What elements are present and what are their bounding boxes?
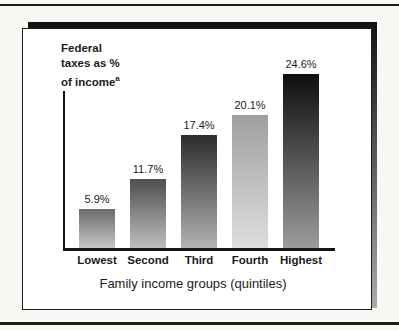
category-label-third: Third bbox=[181, 254, 217, 266]
page-bottom-rule bbox=[0, 322, 399, 325]
bar-group-third: 17.4% bbox=[181, 119, 217, 248]
bar-highest bbox=[283, 74, 319, 248]
bar-group-lowest: 5.9% bbox=[79, 193, 115, 248]
bars-container: 5.9% 11.7% 17.4% 20.1% 24.6% bbox=[79, 29, 319, 248]
bar-value-label: 5.9% bbox=[84, 193, 109, 205]
bar-fourth bbox=[232, 115, 268, 248]
bar-value-label: 17.4% bbox=[183, 119, 214, 131]
bar-group-second: 11.7% bbox=[130, 163, 166, 248]
bar-group-highest: 24.6% bbox=[283, 58, 319, 248]
bar-value-label: 11.7% bbox=[133, 163, 163, 175]
category-label-lowest: Lowest bbox=[79, 254, 115, 266]
bar-second bbox=[130, 179, 166, 248]
chart-panel: Federal taxes as % of incomea 5.9% 11.7%… bbox=[22, 28, 372, 310]
category-label-second: Second bbox=[130, 254, 166, 266]
x-axis-line bbox=[63, 248, 335, 251]
category-label-fourth: Fourth bbox=[232, 254, 268, 266]
bar-third bbox=[181, 135, 217, 248]
bar-value-label: 20.1% bbox=[234, 99, 265, 111]
x-axis-caption: Family income groups (quintiles) bbox=[47, 276, 339, 291]
bar-group-fourth: 20.1% bbox=[232, 99, 268, 248]
bar-value-label: 24.6% bbox=[285, 58, 316, 70]
y-axis-line bbox=[63, 91, 65, 248]
bar-lowest bbox=[79, 209, 115, 248]
scanned-page: Federal taxes as % of incomea 5.9% 11.7%… bbox=[0, 0, 399, 330]
category-labels-row: Lowest Second Third Fourth Highest bbox=[79, 254, 319, 266]
page-top-rule bbox=[0, 4, 399, 6]
category-label-highest: Highest bbox=[283, 254, 319, 266]
